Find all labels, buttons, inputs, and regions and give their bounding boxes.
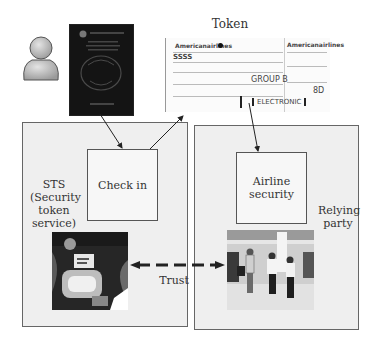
check-in-kiosk-photo xyxy=(52,232,128,310)
sts-label: STS (Security token service) xyxy=(30,178,78,230)
boarding-pass-icon: Americanairlines SSSS GROUP B Americanai… xyxy=(165,38,330,112)
airline-security-label-1: Airline xyxy=(253,175,290,188)
ticket-group: GROUP B xyxy=(251,75,288,84)
airline-security-box: Airline security xyxy=(236,152,307,224)
person-icon xyxy=(20,30,62,82)
ticket-airline-right: Americanairlines xyxy=(287,41,344,48)
security-checkpoint-photo xyxy=(227,230,314,310)
relying-party-label: Relying party xyxy=(318,204,358,230)
airline-security-label-2: security xyxy=(249,188,294,201)
ticket-seat: 8D xyxy=(313,86,324,95)
ticket-electronic: ELECTRONIC xyxy=(252,98,306,106)
ticket-airline-left: Americanairlines xyxy=(175,42,232,49)
ticket-code: SSSS xyxy=(173,53,192,61)
check-in-box: Check in xyxy=(87,149,158,221)
token-title: Token xyxy=(205,18,255,31)
trust-label: Trust xyxy=(156,274,192,287)
check-in-label: Check in xyxy=(98,179,147,192)
passport-icon xyxy=(69,24,134,116)
